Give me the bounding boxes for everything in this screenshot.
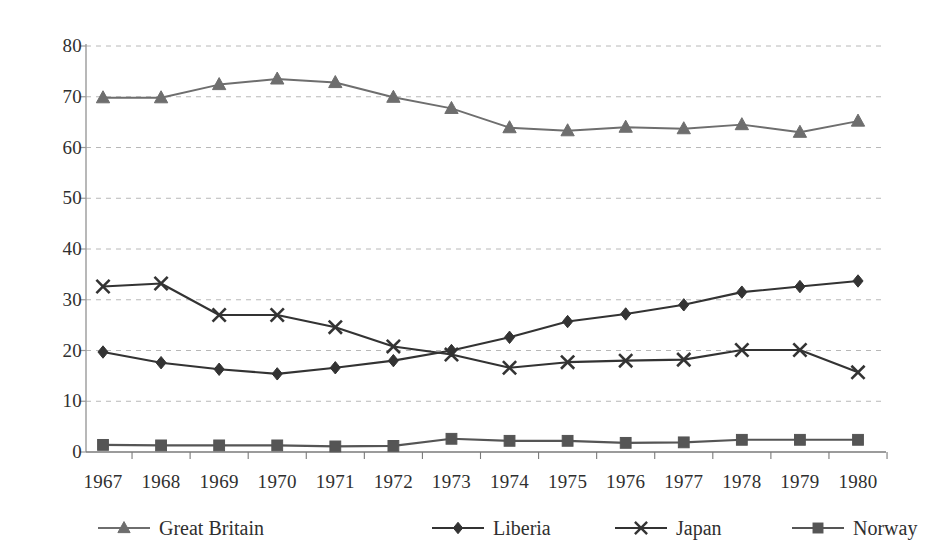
series-norway: [98, 433, 864, 451]
legend-item-norway[interactable]: Norway: [790, 512, 917, 544]
legend-label: Norway: [846, 517, 917, 539]
y-tick-label: 30: [34, 290, 82, 309]
legend-item-japan[interactable]: Japan: [613, 512, 722, 544]
data-point-triangle: [271, 72, 284, 84]
data-point-square: [446, 433, 457, 444]
y-tick-label: 20: [34, 341, 82, 360]
data-point-diamond: [679, 299, 689, 311]
legend-marker-square-icon: [790, 517, 846, 539]
data-point-square: [562, 435, 573, 446]
data-point-triangle: [735, 118, 748, 130]
data-point-x: [851, 366, 864, 379]
line-chart: 01020304050607080 1967196819691970197119…: [0, 0, 950, 559]
data-point-diamond: [214, 363, 224, 375]
data-point-square: [388, 441, 399, 452]
data-point-square: [330, 441, 341, 452]
data-series-group: [96, 72, 864, 452]
data-point-diamond: [388, 354, 398, 366]
data-point-square: [795, 434, 806, 445]
gridlines: [86, 46, 886, 401]
data-point-diamond: [853, 275, 863, 287]
y-tick-label: 0: [34, 442, 82, 461]
y-tick-label: 40: [34, 239, 82, 258]
y-tick-label: 50: [34, 188, 82, 207]
data-point-square: [736, 434, 747, 445]
legend-item-great-britain[interactable]: Great Britain: [96, 512, 264, 544]
data-point-diamond: [621, 308, 631, 320]
data-point-diamond: [737, 286, 747, 298]
y-tick-label: 80: [34, 36, 82, 55]
data-point-square: [620, 437, 631, 448]
y-tick-label: 60: [34, 138, 82, 157]
data-point-diamond: [156, 356, 166, 368]
data-point-diamond: [98, 346, 108, 358]
data-point-square: [272, 440, 283, 451]
data-point-square: [853, 434, 864, 445]
data-point-triangle: [619, 120, 632, 132]
legend-label: Liberia: [486, 517, 551, 539]
data-point-square: [214, 440, 225, 451]
legend-label: Japan: [669, 517, 722, 539]
legend-item-liberia[interactable]: Liberia: [430, 512, 551, 544]
series-great-britain: [96, 72, 864, 137]
data-point-diamond: [795, 280, 805, 292]
data-point-square: [156, 440, 167, 451]
y-tick-label: 70: [34, 87, 82, 106]
legend-marker-triangle-icon: [96, 517, 152, 539]
series-liberia: [98, 275, 863, 380]
y-tick-label: 10: [34, 391, 82, 410]
data-point-square: [504, 435, 515, 446]
data-point-triangle: [851, 114, 864, 126]
series-line: [103, 284, 858, 373]
legend-label: Great Britain: [152, 517, 264, 539]
data-point-diamond: [272, 368, 282, 380]
x-tick-label: 1980: [823, 471, 893, 493]
axis-lines: [80, 44, 887, 459]
x-axis-tick-labels: 1967196819691970197119721973197419751976…: [0, 471, 950, 499]
data-point-square: [98, 439, 109, 450]
data-point-diamond: [563, 315, 573, 327]
data-point-diamond: [330, 362, 340, 374]
data-point-square: [813, 523, 823, 533]
legend-marker-x-icon: [613, 517, 669, 539]
chart-legend: Great BritainLiberiaJapanNorway: [0, 512, 950, 546]
data-point-square: [678, 437, 689, 448]
legend-marker-diamond-icon: [430, 517, 486, 539]
data-point-diamond: [453, 522, 462, 533]
data-point-diamond: [504, 331, 514, 343]
